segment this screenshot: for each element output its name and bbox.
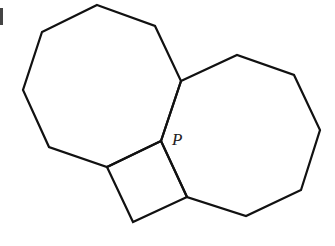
point-p-label: P (171, 130, 182, 149)
geometry-figure: P (0, 0, 335, 246)
square (107, 141, 187, 222)
